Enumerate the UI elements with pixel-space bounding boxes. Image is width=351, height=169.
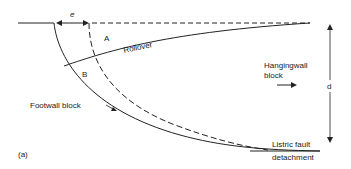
region-a-label: A <box>104 34 110 43</box>
rollover-line <box>64 23 310 66</box>
hangingwall-motion-arrow <box>277 82 297 88</box>
hangingwall-label-line2: block <box>264 71 284 80</box>
depth-label: d <box>327 82 331 91</box>
panel-label: (a) <box>18 150 28 159</box>
heave-arrow <box>56 20 89 26</box>
heave-label: e <box>70 10 75 19</box>
listric-fault-label-line2: detachment <box>272 153 315 162</box>
listric-fault-line <box>54 23 320 151</box>
hangingwall-label-line1: Hangingwall <box>264 61 308 70</box>
region-b-label: B <box>82 70 87 79</box>
footwall-label: Footwall block <box>30 101 82 110</box>
displaced-fault-dashed-line <box>89 23 268 150</box>
rollover-label: Rollover <box>123 40 154 55</box>
listric-fault-diagram: e A B Rollover Hangingwall block d Footw… <box>0 0 351 169</box>
listric-fault-label-line1: Listric fault <box>272 140 311 149</box>
